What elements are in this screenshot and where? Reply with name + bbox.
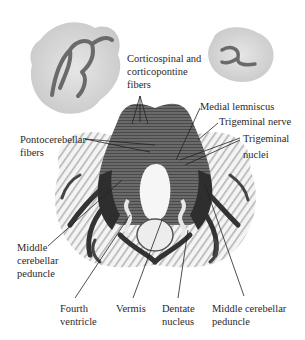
label-middle-peduncle-right-line1: Middle cerebellar — [212, 302, 286, 315]
label-corticospinal-line3: fibers — [127, 78, 201, 91]
label-trigeminal-nuclei: Trigeminal nuclei — [243, 132, 289, 161]
label-vermis: Vermis — [116, 302, 146, 315]
label-pontocerebellar-line2: fibers — [20, 146, 86, 159]
label-vermis-line1: Vermis — [116, 302, 146, 315]
label-middle-peduncle-left: Middle cerebellar peduncle — [17, 241, 58, 280]
label-corticospinal-line1: Corticospinal and — [127, 52, 201, 65]
label-fourth-ventricle-line2: ventricle — [60, 315, 97, 328]
label-middle-peduncle-left-line1: Middle — [17, 241, 58, 254]
figure: Corticospinal and corticopontine fibers … — [0, 0, 305, 340]
label-fourth-ventricle-line1: Fourth — [60, 302, 97, 315]
label-dentate-nucleus: Dentate nucleus — [162, 302, 195, 328]
label-pontocerebellar-line1: Pontocerebellar — [20, 133, 86, 146]
illustration — [0, 0, 305, 340]
label-middle-peduncle-right-line2: peduncle — [212, 315, 286, 328]
label-fourth-ventricle: Fourth ventricle — [60, 302, 97, 328]
label-corticospinal: Corticospinal and corticopontine fibers — [127, 52, 201, 91]
label-corticospinal-line2: corticopontine — [127, 65, 201, 78]
cerebral-section-left — [30, 22, 120, 114]
label-medial-lemniscus: Medial lemniscus — [200, 100, 274, 113]
label-middle-peduncle-left-line3: peduncle — [17, 267, 58, 280]
label-middle-peduncle-left-line2: cerebellar — [17, 254, 58, 267]
label-dentate-nucleus-line2: nucleus — [162, 315, 195, 328]
label-trigeminal-nuclei-line2: nuclei — [243, 148, 289, 161]
label-medial-lemniscus-line1: Medial lemniscus — [200, 100, 274, 113]
label-trigeminal-nuclei-line1: Trigeminal — [243, 132, 289, 145]
label-trigeminal-nerve: Trigeminal nerve — [219, 115, 291, 128]
label-middle-peduncle-right: Middle cerebellar peduncle — [212, 302, 286, 328]
label-dentate-nucleus-line1: Dentate — [162, 302, 195, 315]
cerebral-section-right — [208, 27, 273, 82]
label-pontocerebellar: Pontocerebellar fibers — [20, 133, 86, 159]
label-trigeminal-nerve-line1: Trigeminal nerve — [219, 115, 291, 128]
